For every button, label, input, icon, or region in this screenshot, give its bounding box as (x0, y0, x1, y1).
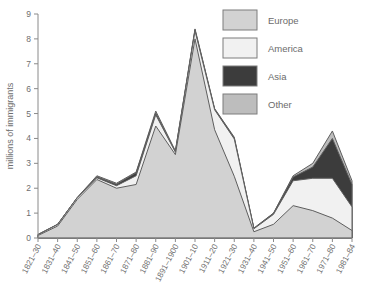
x-tick-group: 1821–301831–401841–501851–601861–701871–… (20, 238, 357, 283)
y-tick-label: 0 (26, 233, 31, 243)
legend-label-america: America (268, 43, 304, 54)
chart-legend: EuropeAmericaAsiaOther (223, 10, 304, 114)
stacked-areas (38, 29, 352, 238)
y-tick-label: 5 (26, 109, 31, 119)
y-axis-title: millions of immigrants (5, 82, 15, 169)
y-tick-label: 3 (26, 158, 31, 168)
immigration-area-chart: 0123456789millions of immigrants1821–301… (0, 0, 365, 298)
legend-label-europe: Europe (268, 15, 299, 26)
x-tick-label: 1981–84 (334, 242, 357, 275)
legend-label-other: Other (268, 99, 292, 110)
legend-swatch-other (223, 94, 257, 114)
y-tick-label: 2 (26, 183, 31, 193)
y-tick-label: 1 (26, 208, 31, 218)
y-tick-label: 8 (26, 34, 31, 44)
y-tick-label: 9 (26, 9, 31, 19)
chart-canvas: 0123456789millions of immigrants1821–301… (0, 0, 365, 298)
area-series-europe (38, 39, 352, 238)
legend-swatch-america (223, 38, 257, 58)
y-tick-label: 7 (26, 59, 31, 69)
legend-swatch-asia (223, 66, 257, 86)
legend-swatch-europe (223, 10, 257, 30)
legend-label-asia: Asia (268, 71, 287, 82)
y-tick-label: 4 (26, 133, 31, 143)
y-tick-group: 0123456789 (26, 9, 38, 243)
y-tick-label: 6 (26, 84, 31, 94)
